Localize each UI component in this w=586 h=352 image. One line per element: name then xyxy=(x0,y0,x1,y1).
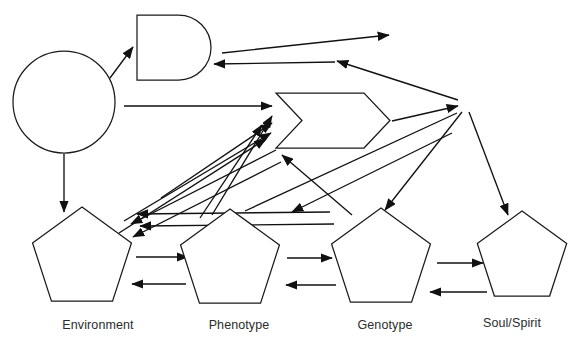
edge-phenotype-to-chevron xyxy=(200,125,262,218)
edge-hub-to-soul xyxy=(469,112,508,215)
d-shape-node[interactable] xyxy=(137,15,211,80)
edge-chevron-to-hub xyxy=(392,106,458,121)
edge-circle-to-dshape xyxy=(110,47,133,78)
pentagon-environment[interactable] xyxy=(33,207,132,301)
edge-dshape-to-right xyxy=(222,35,389,53)
pentagon-environment-label: Environment xyxy=(62,318,134,332)
chevron-node[interactable] xyxy=(276,93,390,148)
edge-environment-to-chevron-b xyxy=(124,133,271,221)
pentagon-phenotype-label: Phenotype xyxy=(209,318,270,332)
edge-phenotype-up xyxy=(212,116,272,215)
diagram-canvas: EnvironmentPhenotypeGenotypeSoul/Spirit xyxy=(0,0,586,352)
pentagon-genotype[interactable] xyxy=(332,208,431,302)
diagram-svg: EnvironmentPhenotypeGenotypeSoul/Spirit xyxy=(0,0,586,352)
edges-layer xyxy=(64,35,508,292)
labels-layer: EnvironmentPhenotypeGenotypeSoul/Spirit xyxy=(62,316,541,332)
circle-node[interactable] xyxy=(13,51,115,153)
nodes-layer xyxy=(13,15,567,303)
edge-mid-to-dshape xyxy=(214,62,335,64)
pentagon-phenotype[interactable] xyxy=(181,209,280,303)
pentagon-soul-spirit-label: Soul/Spirit xyxy=(483,316,541,330)
pentagon-soul-spirit[interactable] xyxy=(477,211,566,296)
pentagon-genotype-label: Genotype xyxy=(357,318,412,332)
edge-genotype-to-chevron xyxy=(282,155,352,215)
